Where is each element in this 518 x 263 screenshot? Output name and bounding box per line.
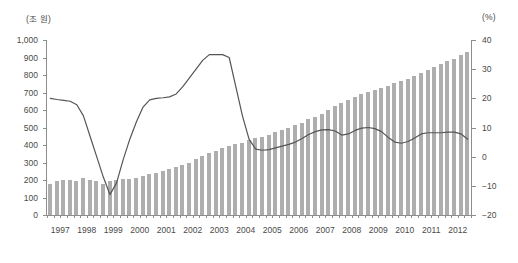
x-axis-tick-mark bbox=[199, 215, 200, 218]
x-axis-tick-mark bbox=[352, 215, 353, 218]
x-axis-tick-mark bbox=[54, 215, 55, 218]
x-axis-tick-mark bbox=[458, 215, 459, 218]
x-axis-tick-mark bbox=[319, 215, 320, 218]
x-axis-tick-mark bbox=[464, 215, 465, 218]
left-axis-tick-label: 200 bbox=[8, 175, 38, 185]
chart-container: (조 원) (%) 1,0009008007006005004003002001… bbox=[0, 0, 518, 263]
x-axis-tick-mark bbox=[266, 215, 267, 218]
x-axis-tick-mark bbox=[180, 215, 181, 218]
right-axis-tick-label: 20 bbox=[482, 93, 512, 103]
x-axis-tick-mark bbox=[332, 215, 333, 218]
x-axis-tick-mark bbox=[345, 215, 346, 218]
x-axis-tick-mark bbox=[140, 215, 141, 218]
x-axis-tick-mark bbox=[166, 215, 167, 218]
x-axis-tick-mark bbox=[411, 215, 412, 218]
left-axis-tick-label: 100 bbox=[8, 193, 38, 203]
x-axis-tick-mark bbox=[47, 215, 48, 218]
right-axis-tick-label: 10 bbox=[482, 123, 512, 133]
x-axis-tick-mark bbox=[405, 215, 406, 218]
x-axis-tick-mark bbox=[153, 215, 154, 218]
right-axis-tick-label: 40 bbox=[482, 35, 512, 45]
x-axis-tick-mark bbox=[418, 215, 419, 218]
x-axis-tick-mark bbox=[74, 215, 75, 218]
right-axis-unit-label: (%) bbox=[482, 12, 496, 22]
line-series-overlay bbox=[47, 40, 471, 215]
x-axis-tick-mark bbox=[107, 215, 108, 218]
x-axis-tick-mark bbox=[226, 215, 227, 218]
left-axis-unit-label: (조 원) bbox=[26, 12, 51, 24]
x-axis-tick-mark bbox=[239, 215, 240, 218]
x-axis-tick-mark bbox=[219, 215, 220, 218]
x-axis-tick-mark bbox=[365, 215, 366, 218]
left-axis-tick-label: 600 bbox=[8, 105, 38, 115]
x-axis-tick-mark bbox=[392, 215, 393, 218]
left-axis-tick-label: 800 bbox=[8, 70, 38, 80]
left-axis-tick-label: 700 bbox=[8, 88, 38, 98]
x-axis-tick-mark bbox=[67, 215, 68, 218]
right-axis-tick-mark bbox=[472, 40, 476, 41]
x-axis-tick-mark bbox=[438, 215, 439, 218]
x-axis-tick-mark bbox=[246, 215, 247, 218]
left-axis-tick-label: 0 bbox=[8, 210, 38, 220]
x-axis-tick-mark bbox=[113, 215, 114, 218]
left-axis-tick-label: 400 bbox=[8, 140, 38, 150]
x-axis-tick-mark bbox=[292, 215, 293, 218]
x-axis-tick-mark bbox=[358, 215, 359, 218]
left-axis-tick-label: 500 bbox=[8, 123, 38, 133]
x-axis-tick-mark bbox=[186, 215, 187, 218]
x-axis-tick-mark bbox=[193, 215, 194, 218]
x-axis-tick-mark bbox=[60, 215, 61, 218]
left-axis-tick-label: 300 bbox=[8, 158, 38, 168]
left-axis-tick-label: 1,000 bbox=[8, 35, 38, 45]
growth-rate-line bbox=[50, 55, 467, 195]
x-axis-tick-mark bbox=[120, 215, 121, 218]
right-axis-tick-label: 0 bbox=[482, 152, 512, 162]
x-axis-tick-mark bbox=[173, 215, 174, 218]
right-axis-tick-mark bbox=[472, 98, 476, 99]
x-axis-tick-mark bbox=[213, 215, 214, 218]
x-axis-tick-mark bbox=[372, 215, 373, 218]
x-axis-tick-mark bbox=[286, 215, 287, 218]
right-axis-tick-label: 30 bbox=[482, 64, 512, 74]
x-axis-tick-mark bbox=[259, 215, 260, 218]
x-axis-tick-mark bbox=[160, 215, 161, 218]
x-axis-tick-mark bbox=[378, 215, 379, 218]
x-axis-tick-mark bbox=[471, 215, 472, 218]
x-axis-tick-mark bbox=[445, 215, 446, 218]
right-axis-tick-mark bbox=[472, 186, 476, 187]
right-axis-tick-label: −20 bbox=[482, 210, 512, 220]
x-axis-tick-mark bbox=[385, 215, 386, 218]
x-axis-tick-mark bbox=[93, 215, 94, 218]
x-axis-tick-mark bbox=[312, 215, 313, 218]
x-axis-tick-mark bbox=[100, 215, 101, 218]
x-axis-tick-mark bbox=[133, 215, 134, 218]
x-axis-tick-mark bbox=[146, 215, 147, 218]
x-axis-tick-mark bbox=[398, 215, 399, 218]
x-axis-tick-mark bbox=[339, 215, 340, 218]
x-axis-tick-label: 2012 bbox=[438, 225, 478, 235]
x-axis-tick-mark bbox=[431, 215, 432, 218]
left-axis-tick-label: 900 bbox=[8, 53, 38, 63]
x-axis-tick-mark bbox=[127, 215, 128, 218]
right-axis-tick-label: −10 bbox=[482, 181, 512, 191]
x-axis-tick-mark bbox=[87, 215, 88, 218]
x-axis-tick-mark bbox=[305, 215, 306, 218]
x-axis-tick-mark bbox=[233, 215, 234, 218]
x-axis-tick-mark bbox=[451, 215, 452, 218]
x-axis-tick-mark bbox=[272, 215, 273, 218]
x-axis-tick-mark bbox=[80, 215, 81, 218]
right-axis-tick-mark bbox=[472, 157, 476, 158]
right-axis-tick-mark bbox=[472, 128, 476, 129]
x-axis-tick-mark bbox=[425, 215, 426, 218]
right-axis-tick-mark bbox=[472, 215, 476, 216]
x-axis-tick-mark bbox=[325, 215, 326, 218]
x-axis-tick-mark bbox=[299, 215, 300, 218]
x-axis-tick-mark bbox=[206, 215, 207, 218]
right-axis-tick-mark bbox=[472, 69, 476, 70]
x-axis-tick-mark bbox=[279, 215, 280, 218]
x-axis-tick-mark bbox=[252, 215, 253, 218]
